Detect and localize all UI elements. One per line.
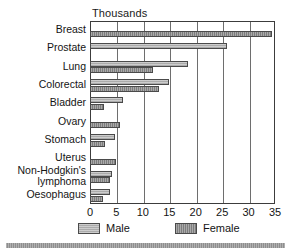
bar-female-stomach: [90, 141, 105, 147]
cancer-incidence-bar-chart: Thousands BreastProstateLungColorectalBl…: [0, 0, 291, 251]
legend-item-male[interactable]: Male: [78, 222, 130, 234]
bar-female-oesophagus: [90, 196, 103, 202]
x-tick-label-0: 0: [87, 206, 93, 218]
category-axis-labels: BreastProstateLungColorectalBladderOvary…: [0, 21, 86, 204]
category-label-ovary: Ovary: [0, 116, 86, 127]
category-label-colorectal: Colorectal: [0, 79, 86, 90]
bar-female-colorectal: [90, 86, 159, 92]
category-label-breast: Breast: [0, 24, 86, 35]
bar-row: [90, 149, 275, 167]
bottom-divider-rule: [6, 243, 285, 248]
bar-row: [90, 131, 275, 149]
x-axis-tick-labels: 05101520253035: [90, 206, 275, 222]
bar-female-lung: [90, 67, 153, 73]
x-tick-label-25: 25: [216, 206, 228, 218]
category-label-line: Lung: [0, 61, 86, 72]
category-label-uterus: Uterus: [0, 152, 86, 163]
bar-rows-container: [90, 21, 275, 204]
bar-male-prostate: [90, 43, 227, 49]
bar-male-non-hodgkin-s-lymphoma: [90, 171, 112, 177]
bar-row: [90, 76, 275, 94]
bar-female-uterus: [90, 159, 116, 165]
x-tick-label-5: 5: [113, 206, 119, 218]
category-label-line: Bladder: [0, 97, 86, 108]
bar-female-ovary: [90, 122, 120, 128]
x-tick-label-20: 20: [190, 206, 202, 218]
x-tick-label-10: 10: [137, 206, 149, 218]
bar-male-lung: [90, 61, 188, 67]
bar-row: [90, 58, 275, 76]
category-label-line: Oesophagus: [0, 189, 86, 200]
x-tick-label-35: 35: [269, 206, 281, 218]
bar-male-bladder: [90, 97, 123, 103]
bar-row: [90, 39, 275, 57]
category-label-line: lymphoma: [0, 176, 86, 187]
bar-row: [90, 167, 275, 185]
bar-female-non-hodgkin-s-lymphoma: [90, 177, 110, 183]
x-tick-label-30: 30: [242, 206, 254, 218]
chart-title: Thousands: [92, 7, 147, 19]
bar-row: [90, 113, 275, 131]
category-label-line: Colorectal: [0, 79, 86, 90]
bar-row: [90, 94, 275, 112]
legend-label-female: Female: [203, 222, 240, 234]
category-label-oesophagus: Oesophagus: [0, 189, 86, 200]
bar-male-stomach: [90, 134, 115, 140]
bar-female-bladder: [90, 104, 104, 110]
category-label-stomach: Stomach: [0, 134, 86, 145]
x-tick-label-15: 15: [163, 206, 175, 218]
bar-male-oesophagus: [90, 189, 110, 195]
category-label-prostate: Prostate: [0, 42, 86, 53]
legend-label-male: Male: [106, 222, 130, 234]
legend-swatch-male: [78, 223, 100, 234]
category-label-bladder: Bladder: [0, 97, 86, 108]
bar-male-colorectal: [90, 79, 169, 85]
chart-legend: MaleFemale: [0, 222, 291, 242]
legend-item-female[interactable]: Female: [175, 222, 240, 234]
bar-row: [90, 186, 275, 204]
category-label-line: Breast: [0, 24, 86, 35]
category-label-non-hodgkin-s-lymphoma: Non-Hodgkin'slymphoma: [0, 165, 86, 186]
bar-female-breast: [90, 31, 272, 37]
category-label-lung: Lung: [0, 61, 86, 72]
category-label-line: Stomach: [0, 134, 86, 145]
category-label-line: Prostate: [0, 42, 86, 53]
category-label-line: Uterus: [0, 152, 86, 163]
legend-swatch-female: [175, 223, 197, 234]
bar-row: [90, 21, 275, 39]
category-label-line: Non-Hodgkin's: [0, 165, 86, 176]
category-label-line: Ovary: [0, 116, 86, 127]
